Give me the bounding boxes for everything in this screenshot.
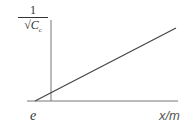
sqrt-symbol: √ xyxy=(24,18,31,32)
x-axis-label: x/m xyxy=(159,108,180,123)
y-label-numerator: 1 xyxy=(18,4,48,18)
y-label-variable: C xyxy=(31,18,39,32)
y-axis-label: 1 √Cc xyxy=(18,4,48,37)
data-line xyxy=(35,28,176,101)
y-label-denominator: √Cc xyxy=(18,18,48,37)
origin-label: e xyxy=(30,108,36,124)
y-label-subscript: c xyxy=(39,26,42,34)
